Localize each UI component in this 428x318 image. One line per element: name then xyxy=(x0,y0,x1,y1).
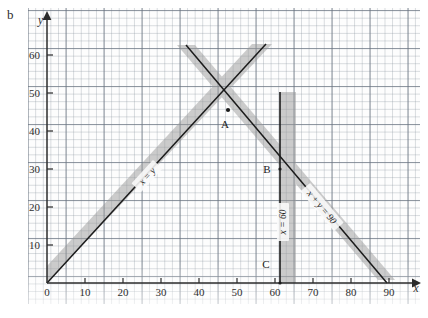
shaded-bands xyxy=(47,44,395,283)
x-tick-label: 60 xyxy=(270,286,282,298)
x-tick-label: 40 xyxy=(194,286,206,298)
y-tick-label: 10 xyxy=(29,239,41,251)
x-tick-label: 10 xyxy=(80,286,92,298)
point-B-label: B xyxy=(263,163,270,175)
band-x-equals-60 xyxy=(280,92,296,283)
y-tick-group: 10 20 30 40 50 60 xyxy=(29,49,53,251)
y-tick-label: 30 xyxy=(29,163,41,175)
x-tick-label: 70 xyxy=(308,286,320,298)
x-tick-label: 30 xyxy=(156,286,168,298)
equation-labels: x = y x + y = 90 x = 60 xyxy=(131,160,343,241)
x-tick-label: 80 xyxy=(346,286,358,298)
plot-layer: x y 0 10 20 30 40 50 60 70 80 90 xyxy=(0,0,428,318)
y-axis-arrow xyxy=(43,11,52,20)
x-tick-label: 90 xyxy=(384,286,396,298)
vertex-points: A B C xyxy=(221,108,282,285)
point-C-marker xyxy=(278,281,281,284)
point-A-marker xyxy=(226,108,230,112)
point-B-marker xyxy=(278,167,281,170)
y-tick-label: 20 xyxy=(29,201,41,213)
label-x-plus-y-90-group: x + y = 90 xyxy=(300,183,343,231)
x-tick-group: 0 10 20 30 40 50 60 70 80 90 xyxy=(44,278,395,298)
point-A-label: A xyxy=(221,118,229,130)
x-tick-label: 50 xyxy=(232,286,244,298)
y-axis-label: y xyxy=(37,14,44,27)
x-axis-label: x xyxy=(412,282,419,294)
y-tick-label: 40 xyxy=(29,125,41,137)
graph-figure: b xyxy=(0,0,428,318)
point-C-label: C xyxy=(262,258,269,270)
x-tick-label: 0 xyxy=(44,286,50,298)
x-tick-label: 20 xyxy=(118,286,130,298)
y-tick-label: 50 xyxy=(29,87,41,99)
label-x-equals-60: x = 60 xyxy=(278,209,288,235)
label-x-equals-60-group: x = 60 xyxy=(277,203,289,241)
y-tick-label: 60 xyxy=(29,49,41,61)
